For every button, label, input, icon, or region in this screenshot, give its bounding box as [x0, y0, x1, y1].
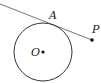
- center-point-o: [41, 50, 44, 53]
- point-p: [90, 38, 94, 42]
- label-a: A: [48, 9, 57, 22]
- geometry-diagram: A O P: [0, 0, 101, 83]
- label-p: P: [91, 23, 100, 36]
- tangent-line: [0, 4, 92, 40]
- label-o: O: [31, 46, 40, 59]
